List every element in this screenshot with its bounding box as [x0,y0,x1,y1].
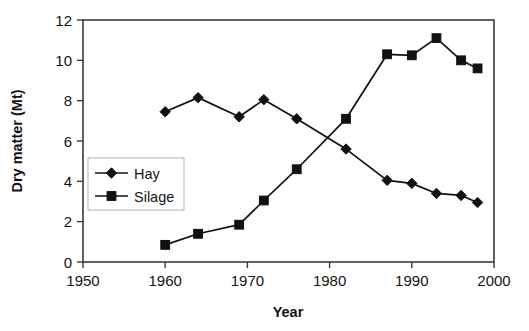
data-series-layer [160,34,483,250]
data-point-silage [383,50,392,59]
data-point-hay [431,188,441,198]
x-axis-title: Year [273,304,304,320]
y-tick-label: 4 [64,173,72,190]
series-hay [160,92,483,207]
series-line-silage [165,38,477,245]
y-tick-label: 0 [64,254,72,271]
chart-legend: HaySilage [88,158,184,210]
data-point-hay [407,178,417,188]
y-axis-tick-labels: 024681012 [55,12,72,271]
line-chart: 024681012 195019601970198019902000 Dry m… [0,0,529,331]
data-point-silage [342,114,351,123]
legend-label: Hay [134,166,161,182]
data-point-silage [292,165,301,174]
data-point-silage [457,56,466,65]
x-tick-label: 1990 [395,272,428,289]
legend-label: Silage [134,189,174,205]
x-tick-label: 1950 [66,272,99,289]
data-point-silage [194,229,203,238]
chart-container: 024681012 195019601970198019902000 Dry m… [0,0,529,331]
data-point-silage [473,64,482,73]
x-tick-label: 1970 [231,272,264,289]
legend-marker-square [107,192,116,201]
data-point-hay [472,197,482,207]
y-tick-label: 2 [64,213,72,230]
x-tick-label: 2000 [477,272,510,289]
x-tick-label: 1980 [313,272,346,289]
data-point-hay [160,107,170,117]
y-tick-label: 8 [64,92,72,109]
data-point-silage [161,240,170,249]
data-point-hay [456,190,466,200]
x-axis-tick-labels: 195019601970198019902000 [66,272,510,289]
data-point-hay [259,94,269,104]
plot-border [83,20,494,262]
x-axis-ticks [83,262,494,268]
y-axis-title: Dry matter (Mt) [9,89,25,192]
series-silage [161,34,482,250]
data-point-silage [235,220,244,229]
data-point-hay [292,114,302,124]
series-line-hay [165,98,477,203]
plot-frame [83,20,494,262]
y-tick-label: 10 [55,52,72,69]
data-point-silage [259,196,268,205]
data-point-hay [234,112,244,122]
y-tick-label: 12 [55,12,72,29]
data-point-hay [193,92,203,102]
data-point-silage [407,51,416,60]
x-tick-label: 1960 [149,272,182,289]
data-point-silage [432,34,441,43]
y-axis-ticks [77,20,83,262]
y-tick-label: 6 [64,133,72,150]
